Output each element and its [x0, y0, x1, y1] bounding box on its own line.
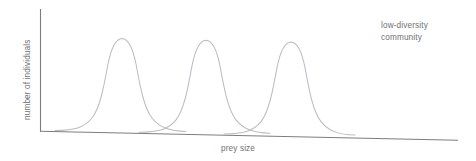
- x-axis-line: [40, 131, 458, 140]
- species-curve-2: [139, 40, 270, 133]
- figure-prey-size-distribution: number of individuals prey size low-dive…: [0, 0, 476, 161]
- species-curve-1: [55, 38, 186, 131]
- community-annotation: low-diversity community: [381, 20, 473, 44]
- community-annotation-line-1: low-diversity: [381, 20, 473, 32]
- community-annotation-line-2: community: [381, 32, 473, 44]
- species-curve-3: [224, 42, 355, 135]
- y-axis-label: number of individuals: [22, 0, 33, 120]
- x-axis-label: prey size: [196, 143, 280, 154]
